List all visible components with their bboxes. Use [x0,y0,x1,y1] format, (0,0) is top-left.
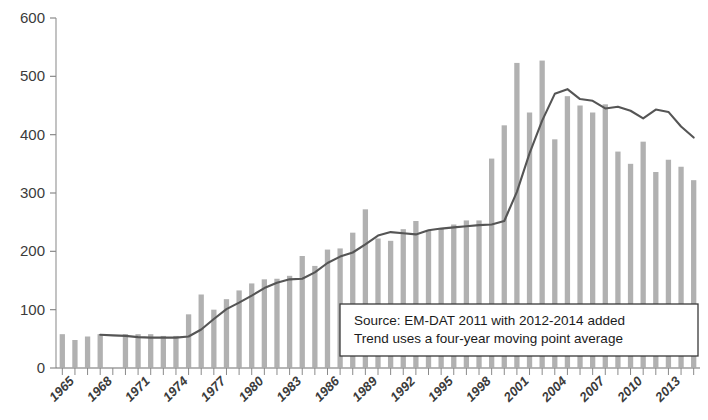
x-axis-tick-label: 1971 [122,374,153,405]
chart-container: 0100200300400500600196519681971197419771… [0,0,708,420]
bar [262,279,267,368]
y-axis-tick-label: 100 [20,301,45,318]
bar [98,334,103,368]
x-axis-tick-label: 1998 [463,373,495,405]
x-axis-tick-label: 1989 [349,373,381,405]
bar [287,276,292,368]
x-axis-tick-label: 1965 [46,373,78,405]
bar [312,266,317,368]
y-axis-tick-label: 300 [20,184,45,201]
x-axis-tick-label: 1980 [235,373,267,405]
bar [300,256,305,368]
x-axis-tick-label: 1983 [273,373,305,405]
x-axis-tick-label: 1977 [198,373,230,405]
bar [148,334,153,368]
bar [135,334,140,368]
x-axis-tick-label: 1992 [387,373,419,405]
x-axis-tick-label: 2010 [614,373,646,405]
x-axis-tick-label: 1968 [84,373,116,405]
x-axis-tick-label: 2001 [500,374,532,406]
disasters-bar-chart: 0100200300400500600196519681971197419771… [0,0,708,420]
y-axis-tick-label: 200 [20,242,45,259]
x-axis-tick-label: 2013 [651,373,683,405]
y-axis-tick-label: 400 [20,126,45,143]
source-annotation-line-2: Trend uses a four-year moving point aver… [354,331,623,346]
y-axis-tick-label: 0 [37,359,45,376]
bar [161,336,166,368]
bar [60,334,65,368]
bar [173,336,178,368]
bar [186,314,191,368]
x-axis-tick-label: 1974 [160,373,192,405]
bar [72,340,77,368]
bar [85,337,90,369]
x-axis-tick-label: 1995 [425,373,457,405]
x-axis-tick-label: 2007 [576,373,608,405]
bar [123,334,128,368]
bar [274,279,279,368]
y-axis-tick-label: 600 [20,9,45,26]
x-axis-tick-label: 1986 [311,373,343,405]
source-annotation-line-1: Source: EM-DAT 2011 with 2012-2014 added [354,313,625,328]
source-annotation-box [340,304,698,356]
bar [325,250,330,368]
y-axis-tick-label: 500 [20,67,45,84]
x-axis-tick-label: 2004 [538,373,570,405]
